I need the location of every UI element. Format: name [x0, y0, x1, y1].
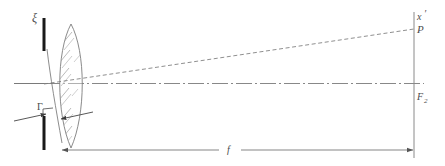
label-image-point: P — [416, 23, 424, 35]
label-image-height-prime: ′ — [424, 8, 427, 19]
label-aperture-height: ξ — [32, 11, 38, 25]
biconvex-lens — [59, 24, 82, 148]
label-focal-point-subscript: 2 — [424, 97, 428, 105]
label-focal-length: f — [227, 144, 231, 155]
label-focal-point: F — [416, 91, 424, 102]
label-lens-thickness: Γ — [37, 101, 43, 112]
label-image-height: x — [416, 11, 422, 22]
chief-ray — [44, 29, 414, 84]
figure-canvas: ξ Γ x ′ P F 2 f — [0, 0, 445, 166]
optics-diagram-figure: ξ Γ x ′ P F 2 f — [0, 0, 445, 166]
